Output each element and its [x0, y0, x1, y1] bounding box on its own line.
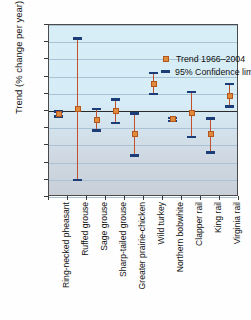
- x-category-label: Sage grouse: [99, 202, 109, 251]
- x-category-label: Virginia rail: [232, 202, 242, 244]
- error-bar-cap-upper: [92, 108, 101, 111]
- legend-trend-square-icon: [163, 56, 169, 62]
- error-bar-cap-lower: [111, 122, 120, 125]
- trend-point-marker: [170, 116, 176, 122]
- x-tick-mark: [200, 196, 201, 200]
- error-bar-cap-lower: [149, 93, 158, 96]
- plot-area: Trend 1966–2004 95% Confidence limits: [48, 24, 238, 196]
- x-tick-mark: [67, 196, 68, 200]
- legend-confidence-label: 95% Confidence limits: [175, 67, 251, 77]
- legend-item-trend: Trend 1966–2004: [161, 52, 251, 65]
- legend-item-confidence: 95% Confidence limits: [161, 65, 251, 78]
- x-tick-mark: [124, 196, 125, 200]
- chart-figure: Trend (% change per year) 2520151050-5-1…: [0, 0, 251, 320]
- y-axis-title: Trend (% change per year): [13, 0, 24, 138]
- x-tick-mark: [162, 196, 163, 200]
- trend-point-marker: [75, 106, 81, 112]
- error-bar-cap-lower: [225, 105, 234, 108]
- x-category-label: Clapper rail: [194, 202, 204, 246]
- trend-point-marker: [94, 117, 100, 123]
- plot-wrapper: Trend (% change per year) 2520151050-5-1…: [0, 0, 251, 320]
- trend-point-marker: [56, 111, 62, 117]
- error-bar-cap-upper: [225, 83, 234, 86]
- x-tick-mark: [181, 196, 182, 200]
- x-tick-mark: [48, 196, 49, 200]
- x-category-label: Greater prairie-chicken: [137, 202, 147, 289]
- error-bar-cap-upper: [187, 91, 196, 94]
- x-category-label: Sharp-tailed grouse: [118, 202, 128, 277]
- x-category-label: Wild turkey: [156, 202, 166, 245]
- gridline: [49, 25, 237, 26]
- x-tick-mark: [238, 196, 239, 200]
- error-bar-cap-lower: [187, 136, 196, 139]
- error-bar-cap-lower: [73, 179, 82, 182]
- error-bar-cap-upper: [73, 37, 82, 40]
- trend-point-marker: [113, 108, 119, 114]
- x-tick-mark: [86, 196, 87, 200]
- error-bar-cap-upper: [149, 72, 158, 75]
- trend-point-marker: [151, 81, 157, 87]
- error-bar-cap-upper: [130, 112, 139, 115]
- trend-point-marker: [132, 131, 138, 137]
- legend-confidence-dash-icon: [161, 70, 170, 73]
- error-bar-cap-lower: [92, 129, 101, 132]
- trend-point-marker: [227, 93, 233, 99]
- trend-point-marker: [208, 131, 214, 137]
- error-bar-cap-upper: [206, 117, 215, 120]
- legend: Trend 1966–2004 95% Confidence limits: [161, 52, 251, 78]
- x-category-label: Ruffed grouse: [80, 202, 90, 256]
- error-bar-cap-upper: [111, 98, 120, 101]
- x-category-label: King rail: [213, 202, 223, 233]
- error-bar-cap-lower: [206, 151, 215, 154]
- x-category-label: Ring-necked pheasant: [61, 202, 71, 288]
- x-tick-mark: [143, 196, 144, 200]
- x-tick-mark: [219, 196, 220, 200]
- error-bar-cap-lower: [130, 154, 139, 157]
- x-tick-mark: [105, 196, 106, 200]
- legend-trend-label: Trend 1966–2004: [176, 54, 245, 64]
- x-category-label: Northern bobwhite: [175, 202, 185, 272]
- trend-point-marker: [189, 110, 195, 116]
